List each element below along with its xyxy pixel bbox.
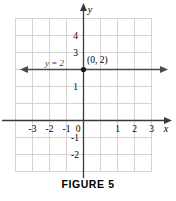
- x-tick-label: 3: [149, 124, 154, 134]
- y-axis: [80, 3, 87, 178]
- line-equation-label: y = 2: [44, 58, 65, 68]
- y-tick-label: 3: [73, 48, 78, 58]
- x-tick-label: 1: [115, 124, 120, 134]
- y-tick-label: 4: [73, 31, 78, 41]
- y-axis-name: y: [87, 4, 93, 15]
- x-tick-label: -3: [29, 124, 37, 134]
- y-tick-label: -1: [71, 133, 79, 143]
- coordinate-plot: -3 -2 -1 0 1 2 3 4 3 1 -1 -2 y x y = 2 (…: [0, 0, 176, 178]
- x-axis-name: x: [163, 123, 169, 134]
- y-tick-label: -2: [71, 150, 79, 160]
- x-tick-label: -1: [63, 124, 71, 134]
- data-point-marker: [81, 67, 86, 72]
- figure-caption: FIGURE 5: [0, 178, 176, 190]
- line-y-equals-2: [20, 66, 168, 73]
- x-tick-label: 2: [132, 124, 137, 134]
- point-coordinate-label: (0, 2): [87, 55, 108, 66]
- plot-svg: -3 -2 -1 0 1 2 3 4 3 1 -1 -2 y x y = 2 (…: [0, 0, 176, 178]
- x-axis: [2, 117, 172, 124]
- figure-container: -3 -2 -1 0 1 2 3 4 3 1 -1 -2 y x y = 2 (…: [0, 0, 176, 201]
- x-tick-label: -2: [46, 124, 54, 134]
- y-tick-label: 1: [73, 82, 78, 92]
